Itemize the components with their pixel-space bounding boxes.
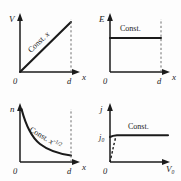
panel-1-canvas: V x 0 d Const. x — [0, 0, 91, 91]
x-axis-label: x — [81, 162, 86, 172]
y-tick-j0: j0 — [98, 132, 104, 143]
physics-figure-sheet: V x 0 d Const. x E x — [0, 0, 181, 181]
svg-text:Const. x: Const. x — [26, 29, 51, 54]
annotation-const: Const. — [120, 24, 141, 33]
x-axis-label-subscript: 0 — [172, 169, 175, 175]
panel-4-canvas: j V0 0 j0 Const. — [90, 90, 181, 181]
origin-label: 0 — [103, 166, 108, 176]
y-tick-subscript: 0 — [101, 137, 104, 143]
x-axis-label: x — [81, 72, 86, 82]
y-axis-label: E — [98, 14, 105, 24]
y-axis — [17, 13, 23, 72]
panel-potential-vs-distance: V x 0 d Const. x — [0, 0, 91, 91]
data-curve-saturation — [110, 135, 168, 137]
x-axis-label: x — [171, 72, 176, 82]
x-tick-d: d — [67, 76, 72, 86]
data-curve-rise-dashed — [110, 138, 116, 162]
origin-label: 0 — [13, 166, 18, 176]
x-tick-d: d — [67, 166, 72, 176]
x-axis-label: V0 — [166, 164, 175, 175]
panel-3-canvas: n x 0 d Const. x-1/2 — [0, 90, 91, 181]
origin-label: 0 — [103, 76, 108, 86]
annotation-const: Const. — [128, 122, 149, 131]
y-axis-label: n — [10, 104, 15, 114]
panel-density-vs-distance: n x 0 d Const. x-1/2 — [0, 90, 91, 181]
panel-2-canvas: E x 0 d Const. — [90, 0, 181, 91]
annotation-const-x: Const. x — [26, 29, 51, 54]
panel-current-vs-voltage: j V0 0 j0 Const. — [90, 90, 181, 181]
x-axis — [110, 159, 170, 165]
origin-label: 0 — [13, 76, 18, 86]
x-tick-d: d — [157, 76, 162, 86]
y-axis — [107, 13, 113, 72]
panel-field-vs-distance: E x 0 d Const. — [90, 0, 181, 91]
annotation-exponent: -1/2 — [53, 137, 64, 147]
y-axis-label: V — [9, 14, 16, 24]
y-axis-label: j — [99, 104, 103, 114]
